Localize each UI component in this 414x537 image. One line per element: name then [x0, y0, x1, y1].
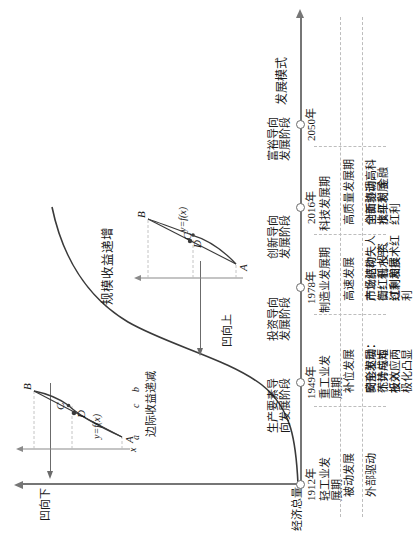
stage-label-factor-driven: 生产要素导 向发展阶段 [268, 378, 292, 433]
stage-label-innovation-driven: 创新导向 发展阶段 [268, 215, 292, 259]
stage-label-investment-driven: 投资导向 发展阶段 [268, 297, 292, 341]
timeline-year-2016: 2016年 [306, 191, 318, 224]
right-inset-function-label: y=f(x) [178, 207, 189, 232]
timeline-node-1949[interactable] [296, 378, 305, 387]
table-row-divider-1 [340, 17, 341, 517]
timeline-year-2050: 2050年 [306, 108, 318, 141]
table-col-divider-1 [314, 406, 386, 407]
right-inset-point-d: D [192, 240, 204, 248]
right-inset-point-c: C [182, 233, 194, 240]
timeline-year-1912: 1912年 [306, 468, 318, 501]
table-col-divider-2 [314, 314, 386, 315]
table-cell-r0-c0: 被动发展 [344, 453, 356, 497]
timeline-period-1978: 制造业发展期 [320, 247, 332, 313]
timeline-year-1949: 1949年 [306, 366, 318, 399]
table-cell-r1-c0: 外部驱动 [366, 453, 378, 497]
table-cell-r2-c1: 畸形发展： 优势与短 板效应两 极化凸显 [366, 338, 414, 393]
timeline-node-1912[interactable] [296, 480, 305, 489]
timeline-node-1978[interactable] [296, 283, 305, 292]
timeline-node-2050[interactable] [296, 120, 305, 129]
table-cell-r0-c1: 补位发展 [344, 349, 356, 393]
timeline-year-1978: 1978年 [306, 271, 318, 304]
timeline-period-2016: 科技发展期 [320, 176, 332, 231]
table-row-divider-2 [362, 17, 363, 517]
table-cell-r2-c2: 产业结构失 衡：低水平、 过剩发展 [366, 235, 402, 301]
table-col-divider-4 [314, 146, 386, 147]
table-cell-r0-c2: 高速发展 [344, 257, 356, 301]
timeline-node-2016[interactable] [296, 203, 305, 212]
right-inset-point-a: A [238, 264, 250, 271]
stage-label-wealth-driven: 富裕导向 发展阶段 [268, 117, 292, 161]
right-inset-point-b: B [136, 211, 148, 218]
table-cell-r0-c3: 高质量发展期 [344, 159, 356, 225]
table-cell-r2-c3: 全面协调高 水平发展 [366, 170, 390, 225]
